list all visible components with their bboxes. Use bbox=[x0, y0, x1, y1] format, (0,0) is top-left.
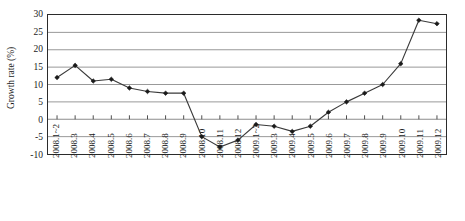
x-axis-tick-label: 2008.1~2 bbox=[51, 124, 61, 158]
data-point-marker bbox=[435, 21, 440, 26]
data-point-marker bbox=[344, 100, 349, 105]
x-axis-tick-label: 2008.3 bbox=[69, 133, 79, 158]
x-axis-tick-label: 2009.11 bbox=[415, 129, 425, 158]
x-axis-tick-label: 2009.12 bbox=[433, 129, 443, 158]
x-axis-tick-label: 2009.5 bbox=[306, 133, 316, 158]
x-axis-tick-label: 2009.4 bbox=[287, 133, 297, 158]
x-axis-tick-label: 2008.7 bbox=[142, 133, 152, 158]
data-point-marker bbox=[163, 91, 168, 96]
x-axis-tick-label: 2009.8 bbox=[360, 133, 370, 158]
chart-figure: Growth rate (%) 302520151050-5-10 2008.1… bbox=[0, 0, 465, 221]
y-axis-tick-label: -10 bbox=[30, 150, 43, 160]
y-axis-tick-label: 25 bbox=[34, 27, 44, 37]
x-axis-tick-label: 2008.5 bbox=[106, 133, 116, 158]
x-axis-tick-label: 2008.8 bbox=[160, 133, 170, 158]
x-axis-tick-label: 2009.3 bbox=[269, 133, 279, 158]
y-axis-tick-label: 15 bbox=[34, 62, 44, 72]
x-axis-tick-label: 2008.4 bbox=[87, 133, 97, 158]
y-axis-tick-label: 10 bbox=[34, 80, 44, 90]
x-axis-tick-label: 2009.7 bbox=[342, 133, 352, 158]
data-point-marker bbox=[127, 86, 132, 91]
data-point-marker bbox=[362, 91, 367, 96]
data-point-marker bbox=[145, 89, 150, 94]
x-axis-tick-label: 2009.10 bbox=[397, 129, 407, 158]
data-line bbox=[57, 20, 437, 147]
x-axis-tick-label: 2009.1~2 bbox=[251, 124, 261, 158]
data-point-marker bbox=[272, 124, 277, 129]
y-axis-tick-label: 30 bbox=[34, 9, 44, 19]
x-axis-tick-label: 2008.9 bbox=[178, 133, 188, 158]
x-axis-tick-label: 2009.6 bbox=[324, 133, 334, 158]
y-axis-tick-label: 20 bbox=[34, 44, 44, 54]
data-point-marker bbox=[417, 18, 422, 23]
x-axis-tick-label: 2008.6 bbox=[124, 133, 134, 158]
y-axis-tick-labels: 302520151050-5-10 bbox=[18, 0, 46, 221]
y-axis-tick-label: 0 bbox=[38, 115, 43, 125]
data-point-marker bbox=[181, 91, 186, 96]
x-axis-tick-label: 2008.11 bbox=[215, 129, 225, 158]
x-axis-tick-label: 2009.9 bbox=[378, 133, 388, 158]
data-point-marker bbox=[109, 77, 114, 82]
y-axis-tick-label: -5 bbox=[35, 132, 43, 142]
y-axis-tick-label: 5 bbox=[38, 97, 43, 107]
x-axis-tick-label: 2008.10 bbox=[197, 129, 207, 158]
x-axis-tick-labels: 2008.1~22008.32008.42008.52008.62008.720… bbox=[47, 156, 447, 221]
x-axis-tick-label: 2008.12 bbox=[233, 129, 243, 158]
